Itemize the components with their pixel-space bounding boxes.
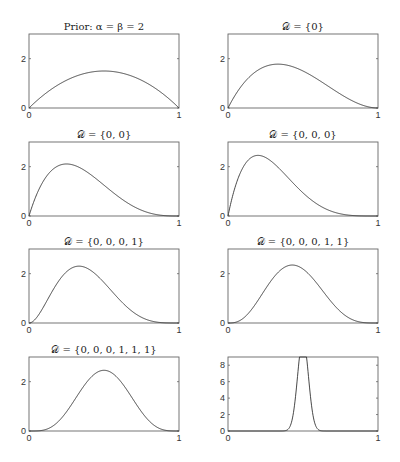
y-tick-label: 2 [21,162,26,172]
density-curve [228,265,378,323]
subplot-title: 𝒟 = {0, 0} [77,129,132,140]
subplot-6: 𝒟 = {0, 0, 0, 1, 1}0201 [220,236,381,335]
y-tick-label: 2 [21,269,26,279]
y-tick-label: 2 [220,162,225,172]
y-tick-label: 0 [21,103,26,113]
axes-frame [228,357,378,431]
y-tick-label: 4 [220,393,225,403]
axes-frame [29,142,179,216]
y-tick-label: 2 [21,54,26,64]
density-curve [228,64,378,108]
y-tick-label: 0 [21,426,26,436]
subplot-5: 𝒟 = {0, 0, 0, 1}0201 [21,236,182,335]
subplot-8: 0246801 [220,357,381,443]
y-tick-label: 2 [21,377,26,387]
subplot-title: 𝒟 = {0} [282,21,324,32]
subplot-title: 𝒟 = {0, 0, 0, 1} [64,236,144,247]
y-tick-label: 8 [220,360,225,370]
y-tick-label: 2 [220,410,225,420]
density-curve [29,164,179,216]
density-curve [29,266,179,323]
y-tick-label: 0 [220,426,225,436]
y-tick-label: 0 [21,318,26,328]
x-tick-label: 0 [26,218,31,228]
y-tick-label: 0 [220,211,225,221]
subplot-title: Prior: α = β = 2 [64,21,144,32]
x-tick-label: 0 [26,325,31,335]
x-tick-label: 0 [225,325,230,335]
x-tick-label: 1 [375,110,380,120]
x-tick-label: 0 [26,433,31,443]
subplot-3: 𝒟 = {0, 0}0201 [21,129,182,228]
x-tick-label: 0 [225,433,230,443]
axes-frame [29,357,179,431]
x-tick-label: 1 [176,110,181,120]
subplot-title: 𝒟 = {0, 0, 0} [269,129,336,140]
y-tick-label: 6 [220,377,225,387]
density-curve [29,71,179,108]
y-tick-label: 2 [220,269,225,279]
subplot-2: 𝒟 = {0}0201 [220,21,381,120]
subplot-7: 𝒟 = {0, 0, 0, 1, 1, 1}0201 [21,344,182,443]
x-tick-label: 1 [176,325,181,335]
subplot-1: Prior: α = β = 20201 [21,21,182,120]
beta-posterior-figure: Prior: α = β = 20201𝒟 = {0}0201𝒟 = {0, 0… [0,0,400,462]
x-tick-label: 1 [176,218,181,228]
x-tick-label: 1 [375,218,380,228]
x-tick-label: 1 [375,325,380,335]
density-curve [228,155,378,216]
x-tick-label: 1 [176,433,181,443]
y-tick-label: 0 [21,211,26,221]
y-tick-label: 2 [220,54,225,64]
subplot-4: 𝒟 = {0, 0, 0}0201 [220,129,381,228]
axes-frame [29,249,179,323]
density-curve [228,357,378,431]
axes-frame [228,142,378,216]
density-curve [29,370,179,431]
x-tick-label: 0 [26,110,31,120]
y-tick-label: 0 [220,103,225,113]
subplot-title: 𝒟 = {0, 0, 0, 1, 1} [257,236,350,247]
x-tick-label: 0 [225,110,230,120]
y-tick-label: 0 [220,318,225,328]
x-tick-label: 0 [225,218,230,228]
axes-frame [228,249,378,323]
subplot-title: 𝒟 = {0, 0, 0, 1, 1, 1} [51,344,156,355]
x-tick-label: 1 [375,433,380,443]
